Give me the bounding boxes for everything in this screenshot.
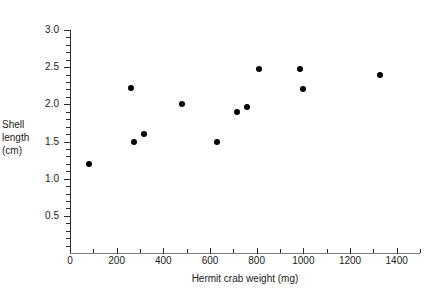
data-point [377, 72, 383, 78]
data-point [179, 101, 185, 107]
data-point [297, 66, 303, 72]
data-point [141, 131, 147, 137]
data-point [300, 86, 306, 92]
y-axis-tick-label: 2.0 [33, 99, 59, 109]
x-axis-tick-label: 1400 [377, 256, 417, 266]
x-axis-tick-label: 0 [50, 256, 90, 266]
x-axis-line [70, 253, 420, 254]
data-point [86, 161, 92, 167]
figure-caption [8, 293, 420, 300]
y-axis-tick-label: 1.0 [33, 174, 59, 184]
x-axis-tick-label: 800 [237, 256, 277, 266]
data-point [234, 109, 240, 115]
y-axis-tick-label: 1.5 [33, 137, 59, 147]
data-point [214, 139, 220, 145]
data-point [256, 66, 262, 72]
x-axis-minor-tick [420, 249, 421, 253]
x-axis-tick-label: 400 [143, 256, 183, 266]
data-point [128, 85, 134, 91]
data-point [244, 104, 250, 110]
data-point [131, 139, 137, 145]
figure-scatter-plot: Shell length (cm) Hermit crab weight (mg… [0, 0, 428, 300]
plot-area [70, 30, 420, 253]
y-axis-tick-label: 2.5 [33, 62, 59, 72]
y-axis-tick-label: 3.0 [33, 25, 59, 35]
x-axis-tick-label: 600 [190, 256, 230, 266]
x-axis-tick-label: 200 [97, 256, 137, 266]
y-axis-tick-label: 0.5 [33, 211, 59, 221]
x-axis-tick-label: 1200 [330, 256, 370, 266]
x-axis-title: Hermit crab weight (mg) [70, 273, 420, 285]
y-axis-title-line-1: Shell [2, 118, 54, 131]
x-axis-tick-label: 1000 [283, 256, 323, 266]
